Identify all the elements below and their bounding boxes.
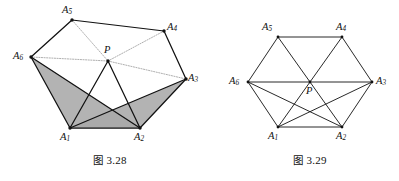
vertex-label-subscript: 1 [274, 134, 278, 142]
vertex-dot-A6 [247, 81, 250, 84]
caption-number-3-29: 3.29 [306, 154, 326, 166]
edge-A5-A6 [248, 37, 278, 82]
vertex-label-fig-3-29-A3: A3 [376, 76, 386, 87]
vertex-label-subscript: 1 [66, 135, 70, 143]
edge-A3-A4 [164, 31, 186, 79]
vertex-label-fig-3-28-A6: A6 [13, 51, 23, 62]
caption-prefix-3-29: 图 [293, 154, 303, 166]
figure-caption-3-29: 图 3.29 [293, 152, 327, 167]
vertex-label-subscript: 6 [235, 79, 239, 87]
vertex-dot-A2 [341, 126, 344, 129]
figure-board: A1A2A3A4A5A6PA1A2A3A4A5A6P 图 3.28 图 3.29 [0, 0, 399, 181]
dotted-edge-P-A3 [108, 61, 186, 79]
vertex-dot-A5 [70, 18, 73, 21]
vertex-dot-P [106, 59, 109, 62]
vertex-dot-A6 [29, 55, 32, 58]
dotted-edge-A5-P [72, 20, 108, 61]
vertex-dot-P [309, 81, 312, 84]
vertex-label-fig-3-29-A6: A6 [229, 76, 239, 87]
dotted-edge-A4-P [108, 31, 164, 61]
edge-A1-A3 [278, 82, 372, 127]
vertex-dot-A5 [277, 36, 280, 39]
vertex-dot-A1 [277, 126, 280, 129]
vertex-dot-A2 [138, 126, 141, 129]
vertex-dot-A1 [68, 126, 71, 129]
vertex-label-fig-3-29-P: P [306, 86, 312, 97]
vertex-dot-A4 [162, 29, 165, 32]
shaded-regions-layer [31, 57, 186, 128]
vertex-label-fig-3-28-A5: A5 [62, 5, 72, 16]
vertex-label-fig-3-28-A4: A4 [167, 22, 177, 33]
vertex-label-base: P [306, 85, 312, 96]
vertex-label-subscript: 5 [268, 25, 272, 33]
vertex-label-subscript: 4 [342, 25, 346, 33]
caption-number-3-28: 3.28 [106, 154, 126, 166]
vertex-label-subscript: 6 [19, 54, 23, 62]
vertex-label-subscript: 5 [68, 8, 72, 16]
vertex-label-subscript: 3 [382, 79, 386, 87]
edge-A4-A5 [72, 20, 164, 31]
vertex-label-fig-3-28-P: P [104, 45, 110, 56]
caption-prefix-3-28: 图 [93, 154, 103, 166]
figure-caption-3-28: 图 3.28 [93, 152, 127, 167]
edge-A6-A2 [248, 82, 342, 127]
edge-A5-A6 [31, 20, 72, 57]
vertex-label-fig-3-29-A2: A2 [336, 131, 346, 142]
vertex-label-subscript: 4 [173, 25, 177, 33]
vertex-label-fig-3-28-A2: A2 [134, 132, 144, 143]
edge-A3-A4 [342, 37, 372, 82]
vertex-label-subscript: 2 [140, 135, 144, 143]
vertex-label-subscript: 2 [342, 134, 346, 142]
vertex-label-fig-3-29-A4: A4 [336, 22, 346, 33]
vertex-label-base: P [104, 44, 110, 55]
vertex-label-subscript: 3 [194, 76, 198, 84]
vertex-dot-A3 [371, 81, 374, 84]
vertex-label-fig-3-28-A1: A1 [60, 132, 70, 143]
vertex-label-fig-3-29-A1: A1 [268, 131, 278, 142]
dotted-edge-A6-P [31, 57, 108, 61]
vertex-label-fig-3-29-A5: A5 [262, 22, 272, 33]
vertex-label-fig-3-28-A3: A3 [188, 73, 198, 84]
vertex-dot-A4 [341, 36, 344, 39]
